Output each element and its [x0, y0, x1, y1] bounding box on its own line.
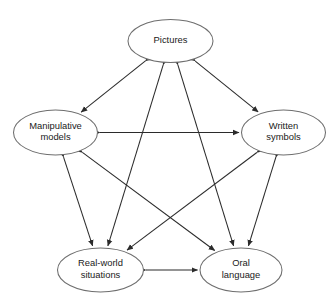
- edge-pictures-written-symbols: [195, 61, 258, 112]
- node-oral-language[interactable]: Orallanguage: [200, 248, 282, 292]
- node-manipulative-models[interactable]: Manipulativemodels: [14, 110, 98, 155]
- node-label-line: situations: [81, 269, 121, 280]
- node-label-line: Manipulative: [29, 120, 82, 131]
- node-real-world-situations[interactable]: Real-worldsituations: [58, 248, 144, 292]
- node-label-line: Real-world: [78, 258, 123, 269]
- node-label-real-world-situations: Real-worldsituations: [78, 258, 123, 280]
- node-label-line: models: [40, 132, 71, 143]
- diagram-canvas: PicturesManipulativemodelsWrittensymbols…: [0, 0, 336, 305]
- representation-modes-diagram: PicturesManipulativemodelsWrittensymbols…: [0, 0, 336, 305]
- node-label-line: language: [222, 269, 261, 280]
- node-pictures[interactable]: Pictures: [128, 20, 213, 63]
- node-label-pictures: Pictures: [154, 34, 188, 45]
- edge-manipulative-models-real-world-situations: [64, 157, 93, 246]
- edge-pictures-manipulative-models: [81, 61, 145, 112]
- node-label-line: Pictures: [154, 34, 188, 45]
- edge-pictures-oral-language: [178, 65, 234, 246]
- node-label-written-symbols: Writtensymbols: [266, 120, 301, 142]
- node-label-line: symbols: [266, 132, 301, 143]
- node-label-line: Oral: [232, 258, 250, 269]
- edge-pictures-real-world-situations: [108, 65, 163, 246]
- node-layer: PicturesManipulativemodelsWrittensymbols…: [14, 20, 326, 293]
- edge-written-symbols-real-world-situations: [127, 153, 257, 251]
- node-written-symbols[interactable]: Writtensymbols: [242, 110, 326, 155]
- edge-layer: [64, 61, 276, 270]
- edge-written-symbols-oral-language: [248, 157, 275, 246]
- edge-manipulative-models-oral-language: [82, 152, 214, 250]
- node-label-line: Written: [269, 120, 299, 131]
